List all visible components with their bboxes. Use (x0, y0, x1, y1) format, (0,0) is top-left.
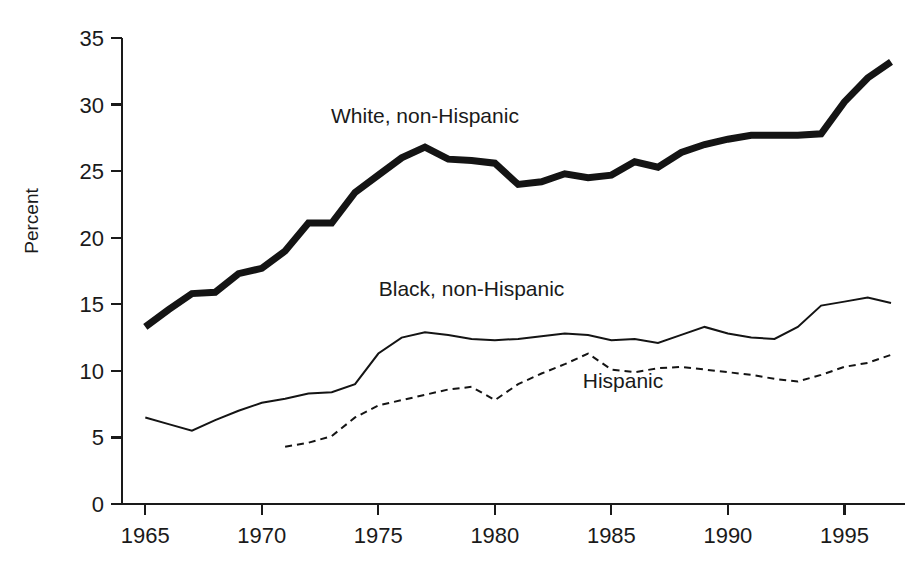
series-label-2: Hispanic (583, 369, 664, 392)
y-tick-label: 15 (80, 292, 104, 317)
y-axis-title: Percent (21, 188, 42, 254)
y-tick-label: 30 (80, 93, 104, 118)
series-label-0: White, non-Hispanic (331, 104, 519, 127)
y-tick-label: 20 (80, 226, 104, 251)
x-tick-label: 1995 (820, 523, 869, 548)
chart-container: 0510152025303519651970197519801985199019… (0, 0, 918, 577)
y-tick-label: 5 (92, 425, 104, 450)
x-tick-label: 1980 (470, 523, 519, 548)
plot-area: 0510152025303519651970197519801985199019… (21, 26, 905, 548)
x-tick-label: 1985 (587, 523, 636, 548)
x-tick-label: 1990 (703, 523, 752, 548)
x-tick-label: 1970 (237, 523, 286, 548)
series-line-1 (145, 298, 891, 431)
y-tick-label: 10 (80, 359, 104, 384)
y-tick-label: 25 (80, 159, 104, 184)
series-line-2 (285, 354, 891, 447)
series-label-1: Black, non-Hispanic (379, 277, 565, 300)
y-tick-label: 0 (92, 492, 104, 517)
x-tick-label: 1965 (121, 523, 170, 548)
y-tick-label: 35 (80, 26, 104, 51)
line-chart: 0510152025303519651970197519801985199019… (0, 0, 918, 577)
x-tick-label: 1975 (354, 523, 403, 548)
